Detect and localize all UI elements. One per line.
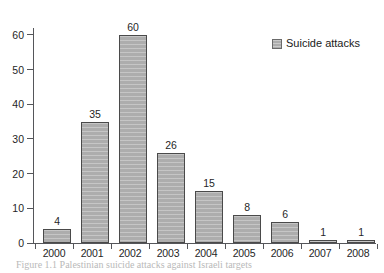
legend-swatch-icon: [272, 39, 282, 49]
y-axis-tick: [27, 104, 33, 105]
y-axis-tick-label: 10: [0, 203, 24, 213]
bar-value-label-2004: 15: [189, 178, 229, 189]
x-axis-label-2000: 2000: [35, 247, 73, 259]
bar-2007[interactable]: [309, 240, 337, 243]
x-axis-label-2005: 2005: [225, 247, 263, 259]
x-axis-label-2004: 2004: [187, 247, 225, 259]
y-axis-tick: [27, 173, 33, 174]
bar-2003[interactable]: [157, 153, 185, 243]
bar-value-label-2000: 4: [37, 216, 77, 227]
y-axis-tick-label: 60: [0, 30, 24, 40]
bar-value-label-2001: 35: [75, 109, 115, 120]
bar-value-label-2006: 6: [265, 209, 305, 220]
y-axis-tick: [27, 138, 33, 139]
y-axis-tick-label: 30: [0, 134, 24, 144]
legend-item-label: Suicide attacks: [286, 38, 360, 49]
figure-caption: Figure 1.1 Palestinian suicide attacks a…: [16, 259, 376, 271]
y-axis-line: [33, 28, 34, 244]
bar-2004[interactable]: [195, 191, 223, 243]
y-axis-tick: [27, 69, 33, 70]
y-axis-tick: [27, 243, 33, 244]
y-axis-tick: [27, 208, 33, 209]
chart-legend: Suicide attacks: [272, 38, 360, 49]
bar-value-label-2007: 1: [303, 227, 343, 238]
x-axis-label-2003: 2003: [149, 247, 187, 259]
bar-value-label-2005: 8: [227, 202, 267, 213]
y-axis-tick-label: 50: [0, 65, 24, 75]
x-axis-label-2006: 2006: [263, 247, 301, 259]
bar-2008[interactable]: [347, 240, 375, 243]
y-axis-tick-label: 0: [0, 238, 24, 248]
x-axis-line: [33, 243, 376, 244]
bar-value-label-2002: 60: [113, 22, 153, 33]
x-axis-label-2007: 2007: [301, 247, 339, 259]
bar-chart-plot-area: 0102030405060 42000352001602002262003152…: [0, 0, 384, 255]
bar-2006[interactable]: [271, 222, 299, 243]
bar-2000[interactable]: [43, 229, 71, 243]
bar-2001[interactable]: [81, 122, 109, 243]
bar-value-label-2003: 26: [151, 140, 191, 151]
bar-2002[interactable]: [119, 35, 147, 243]
y-axis-tick: [27, 34, 33, 35]
bar-value-label-2008: 1: [341, 227, 381, 238]
x-axis-label-2001: 2001: [73, 247, 111, 259]
y-axis-tick-label: 20: [0, 169, 24, 179]
bar-2005[interactable]: [233, 215, 261, 243]
y-axis-tick-label: 40: [0, 99, 24, 109]
x-axis-tick: [377, 244, 378, 249]
figure-container: 0102030405060 42000352001602002262003152…: [0, 0, 384, 273]
x-axis-label-2002: 2002: [111, 247, 149, 259]
x-axis-label-2008: 2008: [339, 247, 377, 259]
